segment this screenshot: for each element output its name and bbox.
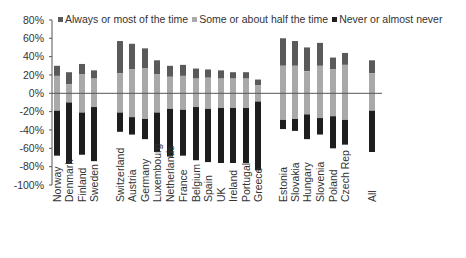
bar-segment-always <box>230 72 236 78</box>
bar-segment-never <box>292 119 298 131</box>
y-tick-label: -80% <box>0 160 44 172</box>
y-tick-label: 80% <box>0 14 44 26</box>
x-tick-label: Belgium <box>190 164 202 202</box>
legend-item-always: Always or most of the time <box>58 13 188 25</box>
bar-segment-always <box>142 48 148 68</box>
x-tick-label: Sweden <box>88 164 100 202</box>
x-tick-label: Slovenia <box>314 162 326 202</box>
bar-segment-never <box>129 117 135 134</box>
bar-segment-some <box>317 66 323 118</box>
bar-segment-always <box>91 70 97 78</box>
bar-segment-never <box>117 113 123 132</box>
y-tick-label: 0% <box>0 87 44 99</box>
legend-item-some: Some or about half the time <box>192 13 328 25</box>
x-tick-label: Norway <box>51 166 63 202</box>
x-tick-label: Poland <box>327 169 339 202</box>
bar-segment-some <box>342 65 348 120</box>
legend-label-always: Always or most of the time <box>65 13 188 25</box>
x-tick-label: Austria <box>126 169 138 202</box>
bar-segment-never <box>218 108 224 163</box>
x-tick-label: Ireland <box>227 170 239 202</box>
bar-segment-never <box>243 108 249 163</box>
bar-segment-always <box>218 70 224 78</box>
x-tick-label: Greece <box>252 168 264 202</box>
legend-swatch-never-icon <box>332 17 337 22</box>
legend-swatch-always-icon <box>58 17 63 22</box>
y-tick-label: -60% <box>0 142 44 154</box>
stacked-diverging-bar-chart: Always or most of the time Some or about… <box>0 0 466 258</box>
bar-segment-never <box>66 102 72 163</box>
y-tick-label: -20% <box>0 105 44 117</box>
bar-segment-always <box>129 44 135 70</box>
x-tick-label: Switzerland <box>114 148 126 202</box>
bar-segment-never <box>317 118 323 135</box>
bar-segment-never <box>280 120 286 129</box>
legend-swatch-some-icon <box>192 17 197 22</box>
legend: Always or most of the time Some or about… <box>58 13 442 25</box>
legend-label-never: Never or almost never <box>339 13 442 25</box>
x-tick-label: Germany <box>139 159 151 202</box>
x-tick-label: Hungary <box>301 162 313 202</box>
bar-segment-always <box>193 69 199 79</box>
bar-segment-always <box>280 38 286 66</box>
x-tick-label: Finland <box>76 168 88 202</box>
bar-segment-always <box>330 58 336 70</box>
bar-segment-always <box>369 60 375 73</box>
x-tick-label: Czech Rep <box>339 150 351 202</box>
bar-segment-always <box>255 80 261 86</box>
bar-segment-never <box>142 119 148 139</box>
y-tick-label: -100% <box>0 179 44 191</box>
bar-segment-some <box>292 66 298 119</box>
bar-segment-never <box>54 111 60 156</box>
x-tick-label: Slovakia <box>289 162 301 202</box>
bar-segment-never <box>205 109 211 162</box>
bar-segment-never <box>230 108 236 163</box>
bar-segment-never <box>180 110 186 156</box>
bar-segment-always <box>180 65 186 76</box>
bar-segment-always <box>66 72 72 84</box>
bar-segment-never <box>342 120 348 145</box>
x-tick-label: France <box>177 169 189 202</box>
y-tick-label: 60% <box>0 32 44 44</box>
bar-segment-never <box>330 116 336 148</box>
x-tick-label: Luxembourg <box>151 144 163 202</box>
x-tick-label: Denmark <box>63 159 75 202</box>
bar-segment-always <box>79 64 85 74</box>
x-tick-label: Spain <box>202 175 214 202</box>
bar-segment-never <box>193 107 199 160</box>
bar-segment-always <box>304 47 310 71</box>
bar-segment-always <box>317 43 323 66</box>
x-tick-label: Estonia <box>277 167 289 202</box>
y-tick-label: 40% <box>0 50 44 62</box>
bar-segment-never <box>304 114 310 139</box>
bar-segment-always <box>205 69 211 77</box>
bar-segment-never <box>255 102 261 171</box>
legend-label-some: Some or about half the time <box>199 13 328 25</box>
bar-segment-some <box>369 73 375 111</box>
bar-segment-never <box>91 107 97 161</box>
bar-segment-always <box>154 60 160 74</box>
bar-segment-never <box>79 113 85 155</box>
x-tick-label: Portugal <box>240 163 252 202</box>
legend-item-never: Never or almost never <box>332 13 442 25</box>
bar-segment-never <box>369 111 375 152</box>
plot-area <box>0 0 466 258</box>
x-tick-label: All <box>366 190 378 202</box>
bar-segment-always <box>292 41 298 66</box>
y-tick-label: -40% <box>0 124 44 136</box>
bar-segment-always <box>54 66 60 76</box>
bar-segment-always <box>117 41 123 73</box>
bar-segment-always <box>167 66 173 77</box>
bar-segment-always <box>243 72 249 78</box>
x-tick-label: Netherlands <box>164 145 176 202</box>
x-tick-label: UK <box>215 187 227 202</box>
y-tick-label: 20% <box>0 69 44 81</box>
bar-segment-always <box>342 53 348 65</box>
